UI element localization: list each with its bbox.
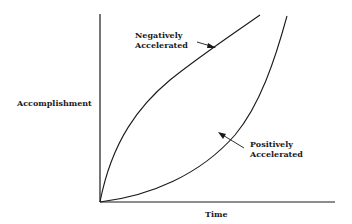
positively-accelerated-curve — [100, 16, 287, 202]
positive-arrow — [218, 132, 244, 148]
y-axis-label: Accomplishment — [17, 98, 92, 108]
negatively-accelerated-label: Negatively Accelerated — [135, 30, 188, 50]
positive-label-line1: Positively — [250, 139, 303, 149]
positively-accelerated-label: Positively Accelerated — [250, 139, 303, 159]
x-axis-label: Time — [205, 209, 228, 219]
negative-arrow — [197, 42, 216, 48]
negative-label-line2: Accelerated — [135, 40, 188, 50]
positive-label-line2: Accelerated — [250, 149, 303, 159]
negative-label-line1: Negatively — [135, 30, 188, 40]
